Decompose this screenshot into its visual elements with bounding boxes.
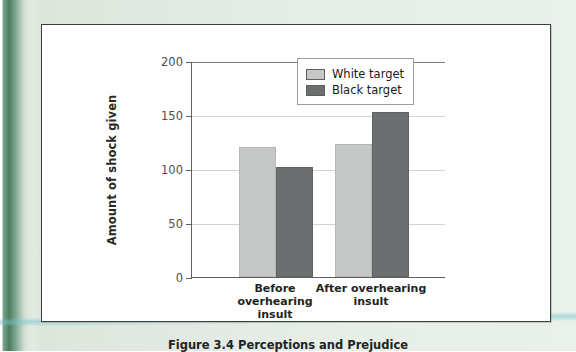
legend-swatch-white-target bbox=[306, 69, 325, 80]
x-axis-label-line: insult bbox=[311, 296, 431, 309]
legend-swatch-black-target bbox=[306, 85, 325, 96]
y-tick-label-50: 50 bbox=[168, 217, 183, 231]
figure-card: Amount of shock given 050100150200 Befor… bbox=[41, 24, 551, 322]
chart-canvas: Amount of shock given 050100150200 Befor… bbox=[42, 25, 552, 323]
legend-label-black-target: Black target bbox=[332, 83, 402, 97]
figure-caption: Figure 3.4 Perceptions and Prejudice bbox=[0, 338, 576, 352]
y-tick-50 bbox=[186, 224, 192, 225]
y-tick-label-0: 0 bbox=[176, 271, 183, 285]
y-tick-label-200: 200 bbox=[161, 55, 183, 69]
x-axis-group-label-2: After overhearinginsult bbox=[311, 283, 431, 309]
x-axis-label-line: insult bbox=[215, 309, 335, 322]
bar-black-target-group-1 bbox=[276, 167, 313, 277]
legend-label-white-target: White target bbox=[332, 67, 404, 81]
bar-white-target-group-1 bbox=[239, 147, 276, 277]
y-axis-title: Amount of shock given bbox=[104, 62, 120, 278]
legend-item-white-target: White target bbox=[306, 67, 404, 81]
y-tick-label-100: 100 bbox=[161, 163, 183, 177]
y-tick-0 bbox=[186, 278, 192, 279]
bar-white-target-group-2 bbox=[335, 144, 372, 277]
y-tick-100 bbox=[186, 170, 192, 171]
legend-item-black-target: Black target bbox=[306, 83, 404, 97]
bar-black-target-group-2 bbox=[372, 112, 409, 277]
chart-legend: White target Black target bbox=[297, 58, 414, 105]
y-tick-label-150: 150 bbox=[161, 109, 183, 123]
y-tick-150 bbox=[186, 116, 192, 117]
y-axis-title-text: Amount of shock given bbox=[105, 95, 119, 246]
y-tick-200 bbox=[186, 62, 192, 63]
